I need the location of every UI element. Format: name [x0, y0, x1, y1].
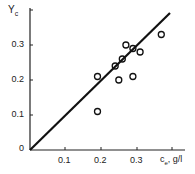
- y-tick-label-0.3: 0.3: [2, 40, 24, 49]
- data-point: [123, 42, 129, 48]
- data-point: [95, 109, 101, 115]
- data-point: [158, 32, 164, 38]
- y-tick-label-0.2: 0.2: [2, 75, 24, 84]
- origin-label: 0: [2, 144, 24, 153]
- data-points: [95, 32, 165, 115]
- data-point: [116, 77, 122, 83]
- fit-line: [30, 13, 170, 150]
- x-tick-label-0.3: 0.3: [130, 156, 143, 165]
- data-point: [137, 49, 143, 55]
- y-axis-label: Yc: [8, 5, 18, 17]
- data-point: [95, 74, 101, 80]
- y-tick-label-0.1: 0.1: [2, 110, 24, 119]
- x-tick-label-0.1: 0.1: [58, 156, 71, 165]
- scatter-chart: [0, 0, 195, 174]
- data-point: [130, 74, 136, 80]
- x-axis-label: ce, g/l: [160, 155, 182, 166]
- x-tick-label-0.2: 0.2: [94, 156, 107, 165]
